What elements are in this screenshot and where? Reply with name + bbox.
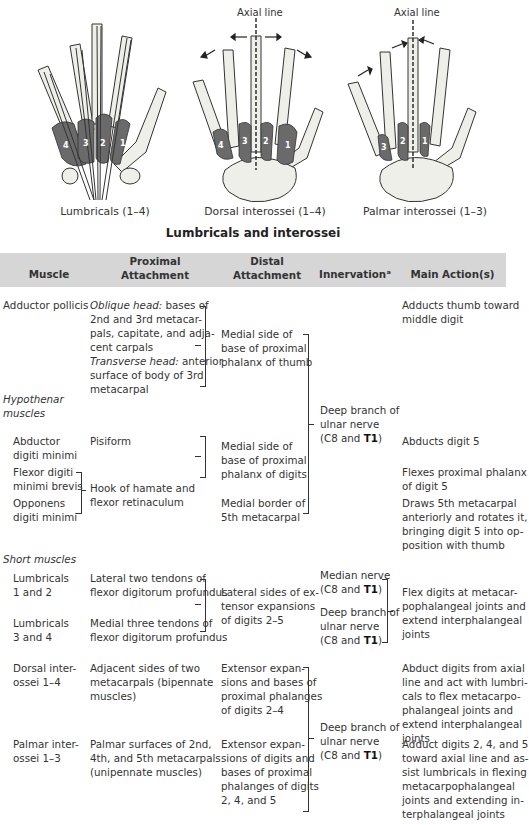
- muscle-label: 3: [381, 143, 387, 152]
- muscle-opponens-digiti-minimi: Opponens digiti minimi: [13, 496, 77, 524]
- bracket-tick: [195, 345, 201, 346]
- innervation-lumbricals-1-2: Median nerve (C8 and T1): [320, 568, 390, 596]
- bracket-tick: [82, 490, 86, 491]
- bracket: [200, 436, 206, 478]
- bracket: [200, 579, 206, 632]
- muscle-label: 3: [83, 139, 89, 148]
- dorsal-interossei-hand-illustration: Axial line 4 3 2 1: [185, 0, 335, 210]
- column-header-proximal: Proximal Attachment: [105, 254, 205, 282]
- distal-palmar-interossei: Extensor expan- sions of digits and base…: [221, 737, 319, 807]
- proximal-lumbricals-1-2: Lateral two tendons of flexor digitorum …: [90, 571, 227, 599]
- axial-line-label: Axial line: [237, 7, 283, 18]
- muscle-adductor-pollicis: Adductor pollicis: [3, 298, 88, 312]
- distal-lumbricals: Lateral sides of ex- tensor expansions o…: [221, 585, 319, 627]
- proximal-hypothenar-shared: Hook of hamate and flexor retinaculum: [90, 481, 195, 509]
- muscle-label: 4: [218, 141, 224, 150]
- distal-hypothenar-shared: Medial side of base of proximal phalanx …: [221, 439, 307, 481]
- action-dorsal-interossei: Abduct digits from axial line and act wi…: [402, 661, 528, 745]
- oblique-head-label: Oblique head:: [90, 299, 162, 311]
- action-opponens-digiti-minimi: Draws 5th metacarpal anteriorly and rota…: [402, 496, 528, 552]
- action-palmar-interossei: Adduct digits 2, 4, and 5 toward axial l…: [402, 737, 529, 821]
- action-flexor-digiti-minimi: Flexes proximal phalanx of digit 5: [402, 465, 527, 493]
- muscle-lumbricals-3-4: Lumbricals 3 and 4: [13, 616, 69, 644]
- bracket-tick: [195, 456, 201, 457]
- distal-adductor-pollicis: Medial side of base of proximal phalanx …: [221, 327, 312, 369]
- muscle-label: 2: [100, 139, 106, 148]
- lumbricals-hand-illustration: 4 3 2 1: [30, 18, 170, 208]
- action-adductor-pollicis: Adducts thumb toward middle digit: [402, 298, 519, 326]
- column-header-muscle: Muscle: [14, 267, 84, 281]
- innervation-interossei: Deep branch of ulnar nerve (C8 and T1): [320, 720, 399, 762]
- transverse-head-label: Transverse head:: [90, 355, 179, 367]
- muscle-label: 1: [120, 139, 126, 148]
- muscle-label: 3: [242, 137, 248, 146]
- innervation-hypothenar: Deep branch of ulnar nerve (C8 and T1): [320, 403, 399, 445]
- distal-opponens-digiti-minimi: Medial border of 5th metacarpal: [221, 496, 305, 524]
- bracket-tick: [388, 611, 393, 612]
- group-label-short-muscles: Short muscles: [3, 552, 76, 566]
- column-header-distal: Distal Attachment: [222, 254, 312, 282]
- muscle-dorsal-interossei: Dorsal inter- ossei 1–4: [13, 661, 76, 689]
- panel-caption-palmar-interossei: Palmar interossei (1–3): [355, 205, 495, 218]
- muscle-palmar-interossei: Palmar inter- ossei 1–3: [13, 737, 79, 765]
- proximal-palmar-interossei: Palmar surfaces of 2nd, 4th, and 5th met…: [90, 737, 221, 779]
- muscle-label: 4: [63, 141, 69, 150]
- proximal-abductor-digiti-minimi: Pisiform: [90, 434, 131, 448]
- muscle-lumbricals-1-2: Lumbricals 1 and 2: [13, 571, 69, 599]
- axial-line-label: Axial line: [394, 7, 440, 18]
- bracket-tick: [308, 424, 314, 425]
- bracket: [76, 472, 82, 514]
- proximal-dorsal-interossei: Adjacent sides of two metacarpals (bipen…: [90, 661, 213, 703]
- palmar-interossei-hand-illustration: Axial line 3 2 1: [340, 0, 506, 210]
- muscle-label: 1: [422, 137, 428, 146]
- muscle-label: 1: [285, 141, 291, 150]
- figure-title: Lumbricals and interossei: [0, 226, 506, 240]
- muscle-flexor-digiti-minimi: Flexor digiti minimi brevis: [13, 465, 83, 493]
- panel-caption-dorsal-interossei: Dorsal interossei (1–4): [195, 205, 335, 218]
- column-header-action: Main Action(s): [405, 267, 500, 281]
- action-abductor-digiti-minimi: Abducts digit 5: [402, 434, 480, 448]
- muscle-abductor-digiti-minimi: Abductor digiti minimi: [13, 434, 77, 462]
- bracket: [200, 306, 206, 387]
- bracket-tick: [195, 604, 201, 605]
- action-lumbricals: Flex digits at metacar- pophalangeal joi…: [402, 585, 526, 641]
- group-label-hypothenar: Hypothenar muscles: [3, 392, 64, 420]
- column-header-innervation: Innervationᵃ: [315, 267, 395, 281]
- panel-caption-lumbricals: Lumbricals (1–4): [40, 205, 170, 218]
- muscle-label: 2: [263, 137, 269, 146]
- proximal-lumbricals-3-4: Medial three tendons of flexor digitorum…: [90, 616, 227, 644]
- muscle-label: 2: [400, 137, 406, 146]
